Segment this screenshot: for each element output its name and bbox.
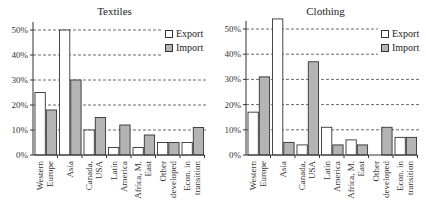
x-category-label: East — [143, 161, 153, 177]
bar-import — [259, 77, 269, 155]
bar-export — [248, 112, 258, 155]
x-category-label: East — [356, 161, 366, 177]
legend-label: Import — [392, 41, 419, 55]
y-tick-label: 20% — [225, 100, 242, 110]
x-category-label: Europe — [45, 161, 55, 187]
bar-import — [120, 125, 130, 155]
bar-import — [308, 62, 318, 155]
x-category-label: Other — [371, 161, 381, 182]
bar-export — [84, 130, 94, 155]
x-category-label: Other — [158, 161, 168, 182]
x-category-label: Asia — [278, 161, 288, 178]
bar-import — [144, 135, 154, 155]
bar-import — [169, 143, 179, 156]
bar-export — [346, 140, 356, 155]
legend-item-import: Import — [381, 41, 419, 55]
x-category-label: Western — [248, 161, 258, 191]
chart-legend: Export Import — [381, 27, 419, 55]
x-category-label: Africa, M. — [346, 161, 356, 199]
bar-export — [133, 148, 143, 156]
y-tick-label: 20% — [12, 100, 29, 110]
import-swatch-icon — [165, 44, 173, 52]
bar-export — [60, 30, 70, 155]
x-category-label: America — [332, 161, 342, 192]
y-tick-label: 10% — [225, 125, 242, 135]
y-tick-label: 0% — [16, 150, 29, 160]
bar-export — [273, 19, 283, 155]
bar-import — [406, 137, 416, 155]
y-tick-label: 30% — [225, 74, 242, 84]
export-swatch-icon — [165, 30, 173, 38]
legend-label: Export — [392, 27, 419, 41]
x-category-label: USA — [307, 161, 317, 180]
bar-import — [71, 80, 81, 155]
bar-import — [382, 127, 392, 155]
x-category-label: Europe — [258, 161, 268, 187]
x-category-label: Latin — [109, 161, 119, 180]
x-category-label: Asia — [65, 161, 75, 178]
bar-export — [182, 143, 192, 156]
legend-label: Export — [176, 27, 203, 41]
x-category-label: Western — [35, 161, 45, 191]
textiles-chart: Textiles 0%10%20%30%40%50%WesternEuropeA… — [0, 0, 213, 212]
bar-export — [322, 127, 332, 155]
x-category-label: Latin — [322, 161, 332, 180]
chart-legend: Export Import — [165, 27, 203, 55]
y-tick-label: 40% — [12, 50, 29, 60]
import-swatch-icon — [381, 44, 389, 52]
bar-import — [284, 142, 294, 155]
legend-item-import: Import — [165, 41, 203, 55]
bar-export — [35, 93, 45, 156]
x-category-label: Econ. in — [395, 161, 405, 191]
x-category-label: America — [119, 161, 129, 192]
bar-export — [109, 148, 119, 156]
bar-import — [95, 118, 105, 156]
bar-import — [193, 128, 203, 156]
x-category-label: USA — [94, 161, 104, 180]
bar-import — [333, 145, 343, 155]
x-category-label: Econ. in — [182, 161, 192, 191]
x-category-label: Africa, M. — [133, 161, 143, 199]
x-category-label: Canada, — [297, 161, 307, 190]
x-category-label: developed — [168, 161, 178, 198]
y-tick-label: 10% — [12, 125, 29, 135]
x-category-label: Canada, — [84, 161, 94, 190]
y-tick-label: 30% — [12, 75, 29, 85]
clothing-chart: Clothing 0%10%20%30%40%50%WesternEuropeA… — [213, 0, 426, 212]
bar-export — [395, 137, 405, 155]
x-category-label: transition — [192, 161, 202, 195]
x-category-label: developed — [381, 161, 391, 198]
y-tick-label: 50% — [12, 25, 29, 35]
bar-import — [46, 110, 56, 155]
y-tick-label: 50% — [225, 24, 242, 34]
bar-export — [158, 143, 168, 156]
legend-item-export: Export — [381, 27, 419, 41]
export-swatch-icon — [381, 30, 389, 38]
legend-item-export: Export — [165, 27, 203, 41]
y-tick-label: 40% — [225, 49, 242, 59]
y-tick-label: 0% — [229, 150, 242, 160]
x-category-label: transition — [405, 161, 415, 195]
bar-export — [297, 145, 307, 155]
bar-import — [357, 145, 367, 155]
legend-label: Import — [176, 41, 203, 55]
